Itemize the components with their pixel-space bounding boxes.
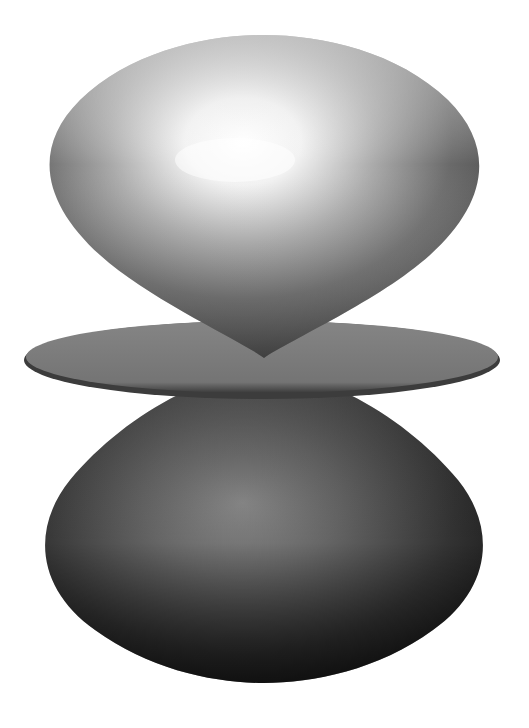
orbital-svg [0, 0, 529, 728]
specular-highlight [175, 138, 295, 182]
top-lobe [50, 35, 480, 358]
orbital-figure [0, 0, 529, 728]
bottom-lobe [45, 372, 483, 683]
